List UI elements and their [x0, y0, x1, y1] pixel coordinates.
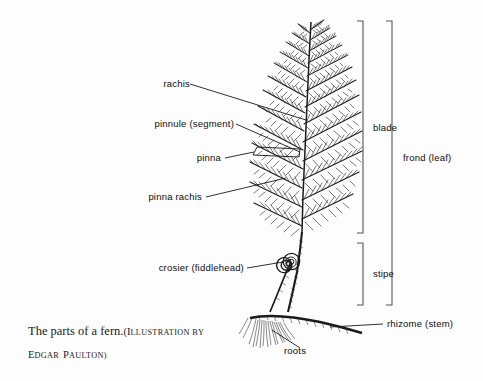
fern-frond: [190, 20, 392, 348]
caption-credit-text: LLUSTRATION BY: [130, 328, 204, 337]
figure-caption: The parts of a fern.(ILLUSTRATION BY EDG…: [28, 318, 238, 364]
caption-artist-dgar: DGAR: [34, 351, 59, 360]
caption-title: The parts of a fern.: [28, 324, 123, 338]
label-blade: blade: [373, 123, 397, 133]
label-rachis: rachis: [90, 79, 190, 89]
label-crosier: crosier (fiddlehead): [140, 263, 244, 273]
label-pinna-rachis: pinna rachis: [118, 192, 202, 202]
label-pinnule: pinnule (segment): [116, 119, 234, 129]
label-stipe: stipe: [373, 269, 394, 279]
brackets: [357, 21, 392, 305]
label-pinna: pinna: [153, 153, 221, 163]
fern-diagram-page: rachis pinnule (segment) pinna pinna rac…: [0, 0, 483, 381]
root-hairs: [239, 318, 295, 348]
label-frond: frond (leaf): [403, 153, 451, 163]
label-rhizome: rhizome (stem): [387, 319, 453, 329]
caption-artist-aulton: AULTON): [69, 351, 107, 360]
label-roots: roots: [284, 346, 306, 356]
